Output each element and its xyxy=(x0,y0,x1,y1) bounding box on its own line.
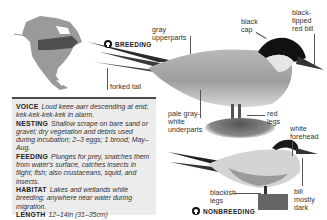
fact-voice: VOICELoud keee-aarr descending at end; k… xyxy=(16,103,152,120)
label-gray-upperparts: gray upperparts xyxy=(152,26,186,42)
north-america-range-map-icon xyxy=(12,12,92,94)
label-bill: black- tipped red bill xyxy=(292,9,313,33)
leader-underparts xyxy=(200,90,201,118)
nonbreeding-badge-label: NONBREEDING xyxy=(203,208,255,215)
plumage-season-icon xyxy=(192,207,200,215)
nonbreeding-badge: NONBREEDING xyxy=(192,207,255,215)
label-white-forehead: white forehead xyxy=(290,125,318,141)
label-forked-tail: forked tail xyxy=(110,83,141,91)
label-red-legs: red legs xyxy=(267,110,280,126)
label-bill-mostly-dark: bill mostly dark xyxy=(294,188,315,212)
leader-gray-upperparts xyxy=(190,36,191,54)
rock xyxy=(205,118,275,138)
breeding-badge: BREEDING xyxy=(104,40,152,48)
fact-nesting: NESTINGShallow scrape on bare sand or gr… xyxy=(16,120,152,153)
breeding-badge-label: BREEDING xyxy=(115,41,152,48)
leader-white-forehead xyxy=(292,142,293,156)
leader-forked-tail xyxy=(107,68,108,90)
label-underparts: pale gray- white underparts xyxy=(168,110,202,134)
leader-bill-mostly-dark xyxy=(302,158,303,186)
label-blackish-legs: blackish legs xyxy=(210,189,236,205)
leader-red-legs xyxy=(247,115,265,116)
species-facts-box: VOICELoud keee-aarr descending at end; k… xyxy=(12,97,156,215)
range-map xyxy=(12,12,92,94)
leader-blackish-legs xyxy=(233,193,261,194)
fact-habitat: HABITATLakes and wetlands while breeding… xyxy=(16,186,152,211)
fact-feeding: FEEDINGPlunges for prey, snatches them f… xyxy=(16,153,152,186)
fact-length: LENGTH12–14in (31–35cm) xyxy=(16,211,152,219)
fact-wingspan: WINGSPAN30–31in (75–80cm) xyxy=(16,219,152,220)
leader-bill xyxy=(314,34,315,66)
plumage-season-icon xyxy=(104,40,112,48)
